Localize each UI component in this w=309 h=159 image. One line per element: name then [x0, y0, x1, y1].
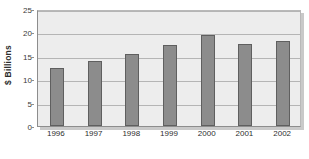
bar: [238, 44, 252, 126]
y-axis-tick-mark: [31, 127, 34, 128]
y-axis-tick-mark: [31, 33, 34, 34]
x-axis-tick-label: 1998: [122, 129, 140, 138]
bar: [125, 54, 139, 126]
x-axis-tick-labels: 1996199719981999200020012002: [37, 129, 301, 145]
bar-slot: [38, 11, 76, 126]
y-axis-tick-mark: [31, 57, 34, 58]
x-axis-tick-label: 1997: [85, 129, 103, 138]
bar: [50, 68, 64, 126]
x-axis-tick-label: 2000: [198, 129, 216, 138]
x-axis-tick-label: 1999: [160, 129, 178, 138]
bar: [276, 41, 290, 126]
x-axis-tick-label: 1996: [47, 129, 65, 138]
bar-slot: [113, 11, 151, 126]
y-axis-tick-labels: 0510152025: [16, 10, 34, 127]
x-axis-tick-label: 2001: [236, 129, 254, 138]
bar: [163, 45, 177, 126]
y-axis-title-text: $ Billions: [3, 45, 13, 85]
bar-chart-figure: $ Billions 0510152025 199619971998199920…: [0, 0, 309, 159]
bar-slot: [151, 11, 189, 126]
bar-slot: [227, 11, 265, 126]
bar-slot: [189, 11, 227, 126]
y-axis-title: $ Billions: [0, 0, 16, 130]
bar-series: [38, 11, 300, 126]
plot-area: [37, 10, 301, 127]
bar-slot: [264, 11, 302, 126]
bar: [201, 35, 215, 126]
y-axis-tick-mark: [31, 80, 34, 81]
y-axis-tick-mark: [31, 10, 34, 11]
x-axis-tick-label: 2002: [273, 129, 291, 138]
bar: [88, 61, 102, 126]
bar-slot: [76, 11, 114, 126]
y-axis-tick-mark: [31, 104, 34, 105]
